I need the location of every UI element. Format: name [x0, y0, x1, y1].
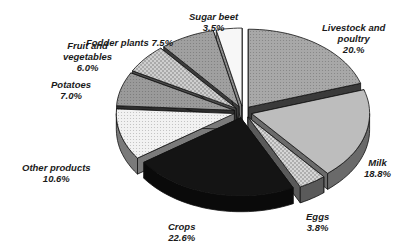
label-milk-value: 18.8%: [364, 168, 391, 179]
label-potatoes-line1: Potatoes: [51, 79, 91, 90]
label-potatoes-value: 7.0%: [51, 90, 91, 101]
label-eggs: Eggs 3.8%: [306, 211, 329, 233]
pie-slices: [116, 28, 369, 212]
label-livestock-line2: poultry: [322, 33, 385, 44]
label-fruit-value: 6.0%: [63, 62, 112, 73]
label-potatoes: Potatoes 7.0%: [51, 79, 91, 101]
label-other-line1: Other products: [22, 162, 91, 173]
label-milk: Milk 18.8%: [364, 157, 391, 179]
label-sugar-beet: Sugar beet 3.5%: [189, 11, 238, 33]
label-livestock-line1: Livestock and: [322, 22, 385, 33]
label-crops-line1: Crops: [168, 221, 195, 232]
label-other-value: 10.6%: [22, 173, 91, 184]
label-sugar-value: 3.5%: [189, 22, 238, 33]
label-eggs-value: 3.8%: [306, 222, 329, 233]
label-eggs-line1: Eggs: [306, 211, 329, 222]
label-crops: Crops 22.6%: [168, 221, 195, 243]
label-milk-line1: Milk: [364, 157, 391, 168]
label-other-products: Other products 10.6%: [22, 162, 91, 184]
label-livestock: Livestock and poultry 20.%: [322, 22, 385, 55]
label-crops-value: 22.6%: [168, 232, 195, 243]
label-fodder-plants: Fodder plants 7.5%: [86, 37, 173, 48]
label-fruit-line2: vegetables: [63, 51, 112, 62]
label-fodder-line1: Fodder plants 7.5%: [86, 37, 173, 48]
label-livestock-value: 20.%: [322, 44, 385, 55]
label-sugar-line1: Sugar beet: [189, 11, 238, 22]
